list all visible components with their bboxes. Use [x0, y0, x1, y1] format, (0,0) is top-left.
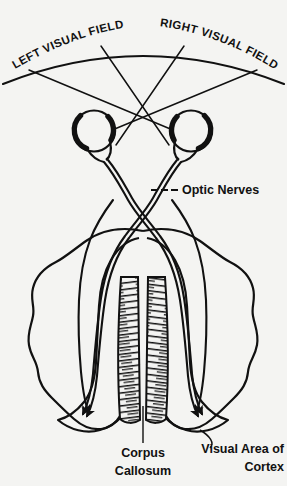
sight-lines — [29, 46, 257, 145]
label-visual-cortex-line1: Visual Area of — [201, 442, 285, 456]
right-eye — [171, 111, 212, 163]
brain-outline — [28, 229, 257, 429]
label-left-visual-field: LEFT VISUAL FIELD — [10, 18, 124, 71]
visual-pathway-diagram: LEFT VISUAL FIELD RIGHT VISUAL FIELD Opt… — [0, 0, 287, 486]
corpus-callosum — [118, 277, 168, 423]
label-corpus-callosum-line2: Callosum — [115, 464, 171, 478]
left-eye — [74, 111, 115, 163]
label-right-visual-field: RIGHT VISUAL FIELD — [159, 16, 280, 71]
visual-field-arc — [3, 56, 284, 84]
label-corpus-callosum-line1: Corpus — [121, 446, 165, 460]
label-visual-cortex-line2: Cortex — [244, 460, 284, 474]
label-optic-nerves: Optic Nerves — [182, 183, 259, 197]
